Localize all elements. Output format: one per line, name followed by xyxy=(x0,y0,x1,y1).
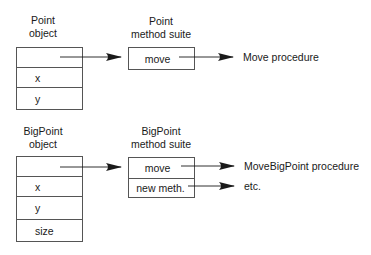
arrows-layer xyxy=(0,0,371,255)
